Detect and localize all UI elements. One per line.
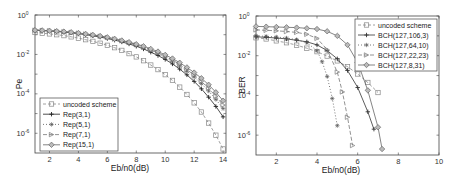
data-point bbox=[325, 74, 329, 78]
y-tick-label: 10-6 bbox=[238, 130, 251, 140]
legend-label: Rep(15,1) bbox=[63, 141, 94, 149]
legend-label: BCH(127,106,3) bbox=[378, 32, 429, 40]
legend-marker-icon bbox=[49, 122, 53, 126]
legend-item: uncoded scheme bbox=[43, 101, 116, 108]
x-tick-label: 12 bbox=[190, 155, 198, 164]
y-tick-label: 10-2 bbox=[17, 49, 30, 59]
pe-chart: 246810121410010-210-410-6 Eb/n0(dB) Pe u… bbox=[14, 10, 227, 174]
legend-label: BCH(127,8,31) bbox=[378, 62, 425, 70]
data-point bbox=[315, 48, 319, 52]
legend-label: uncoded scheme bbox=[63, 101, 116, 108]
x-tick-label: 8 bbox=[396, 157, 400, 166]
x-tick-label: 6 bbox=[105, 155, 109, 164]
y-axis-label: BER bbox=[237, 76, 247, 93]
legend-label: uncoded scheme bbox=[378, 22, 431, 29]
y-axis-label: Pe bbox=[14, 79, 24, 90]
x-axis-label: Eb/n0(dB) bbox=[111, 163, 149, 173]
y-tick-label: 100 bbox=[17, 10, 28, 20]
ber-chart: 24681010010-210-410-6 Eb/n0(dB) BER unco… bbox=[237, 11, 443, 176]
x-tick-label: 10 bbox=[435, 157, 443, 166]
y-tick-label: 10-6 bbox=[17, 128, 30, 138]
x-tick-label: 2 bbox=[47, 155, 51, 164]
data-point bbox=[254, 34, 258, 38]
y-tick-label: 10-2 bbox=[238, 50, 251, 60]
x-tick-label: 10 bbox=[161, 155, 169, 164]
data-point bbox=[284, 36, 288, 40]
data-point bbox=[320, 59, 324, 63]
data-point bbox=[294, 37, 298, 41]
legend-marker-icon bbox=[364, 43, 368, 47]
legend-label: Rep(7,1) bbox=[63, 131, 90, 139]
legend-item: uncoded scheme bbox=[358, 22, 431, 29]
data-point bbox=[330, 96, 334, 100]
x-axis-label: Eb/n0(dB) bbox=[322, 165, 360, 175]
figure: 246810121410010-210-410-6 Eb/n0(dB) Pe u… bbox=[0, 0, 459, 182]
y-tick-label: 100 bbox=[238, 11, 249, 21]
legend-label: Rep(3,1) bbox=[63, 111, 90, 119]
legend: uncoded schemeRep(3,1)Rep(5,1)Rep(7,1)Re… bbox=[40, 98, 118, 151]
legend: uncoded schemeBCH(127,106,3)BCH(127,64,1… bbox=[355, 19, 437, 71]
data-point bbox=[335, 123, 339, 127]
x-tick-label: 2 bbox=[274, 157, 278, 166]
legend-label: BCH(127,64,10) bbox=[378, 42, 429, 50]
legend-label: BCH(127,22,23) bbox=[378, 52, 429, 60]
x-tick-label: 4 bbox=[315, 157, 319, 166]
x-tick-label: 4 bbox=[76, 155, 80, 164]
x-tick-label: 14 bbox=[219, 155, 227, 164]
data-point bbox=[305, 41, 309, 45]
legend-label: Rep(5,1) bbox=[63, 121, 90, 129]
data-point bbox=[274, 35, 278, 39]
data-point bbox=[264, 34, 268, 38]
